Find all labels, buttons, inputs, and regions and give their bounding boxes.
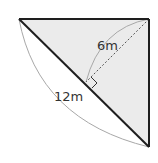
altitude-label: 6m — [97, 38, 118, 53]
hypotenuse-label: 12m — [54, 89, 83, 104]
triangle-diagram: 6m 12m — [0, 0, 158, 163]
